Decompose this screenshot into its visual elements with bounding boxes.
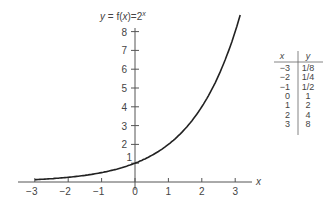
exponential-curve (35, 15, 240, 180)
x-tick-label: −2 (59, 186, 71, 197)
table-header-x: x (279, 51, 285, 61)
table-cell-x: 3 (285, 119, 290, 129)
y-tick-label: 6 (121, 64, 127, 75)
exponential-chart: x −3−2−10123 12345678 y = f(x)=2x x y −3… (0, 0, 323, 201)
y-tick-label: 5 (121, 83, 127, 94)
x-tick-label: 0 (132, 186, 138, 197)
x-tick-label: −3 (26, 186, 38, 197)
y-tick-label: 3 (121, 121, 127, 132)
x-tick-label: −1 (93, 186, 105, 197)
x-tick-label: 2 (199, 186, 205, 197)
y-tick-label: 1 (126, 152, 132, 163)
table-header-y: y (305, 51, 311, 61)
y-tick-label: 4 (121, 102, 127, 113)
x-tick-label: 3 (232, 186, 238, 197)
table-cell-y: 8 (305, 119, 310, 129)
y-tick-label: 2 (121, 139, 127, 150)
x-tick-label: 1 (166, 186, 172, 197)
value-table: x y −31/8−21/4−11/201122438 (274, 51, 323, 135)
y-tick-label: 7 (121, 45, 127, 56)
x-ticks: −3−2−10123 (26, 178, 238, 197)
y-ticks: 12345678 (121, 27, 139, 164)
chart-title: y = f(x)=2x (99, 10, 146, 22)
x-axis-label: x (255, 176, 262, 187)
y-tick-label: 8 (121, 27, 127, 38)
